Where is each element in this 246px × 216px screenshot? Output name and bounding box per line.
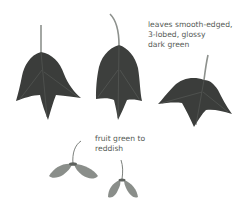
fruit-1 bbox=[49, 141, 98, 179]
fruit-annotation: fruit green to reddish bbox=[95, 134, 145, 154]
leaves-annotation: leaves smooth-edged, 3-lobed, glossy dar… bbox=[148, 20, 232, 50]
leaf-1 bbox=[16, 25, 81, 120]
leaf-2 bbox=[96, 14, 142, 120]
fruit-2 bbox=[108, 160, 138, 198]
leaf-3 bbox=[158, 55, 232, 127]
illustration-canvas: leaves smooth-edged, 3-lobed, glossy dar… bbox=[0, 0, 246, 216]
